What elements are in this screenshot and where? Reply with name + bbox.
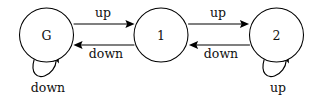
edge-1-to-2 xyxy=(188,20,249,28)
edge-label-1-to-g: down xyxy=(89,46,123,61)
edge-label-1-to-2: up xyxy=(210,5,226,20)
self-loop-label-2: up xyxy=(270,80,286,95)
edge-label-g-to-1: up xyxy=(95,5,111,20)
edge-label-2-to-1: down xyxy=(204,46,238,61)
self-loop-label-g: down xyxy=(31,80,65,95)
state-diagram-svg: G 1 2 up down up down down up xyxy=(0,0,320,97)
node-g-label: G xyxy=(42,28,52,43)
node-g[interactable]: G xyxy=(20,8,74,62)
node-1[interactable]: 1 xyxy=(134,8,188,62)
edge-g-to-1 xyxy=(74,20,135,28)
state-diagram-canvas: G 1 2 up down up down down up xyxy=(0,0,320,97)
node-2[interactable]: 2 xyxy=(250,8,304,62)
node-1-label: 1 xyxy=(157,28,165,43)
node-2-label: 2 xyxy=(273,28,281,43)
